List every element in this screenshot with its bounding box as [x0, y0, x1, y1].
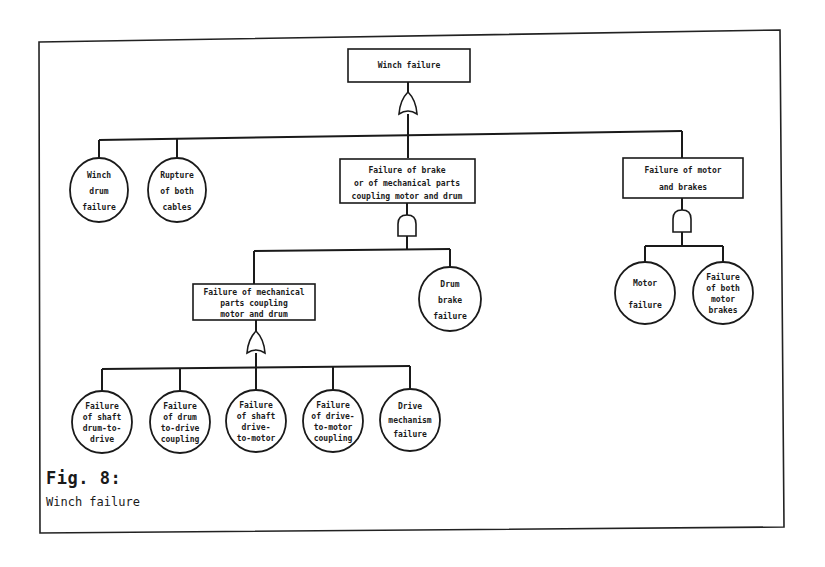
- svg-text:Failure of mechanical: Failure of mechanical: [203, 287, 304, 297]
- svg-text:or of mechanical parts: or of mechanical parts: [354, 178, 460, 188]
- figure-number: Fig. 8:: [46, 468, 121, 488]
- svg-text:Rupture: Rupture: [160, 171, 194, 180]
- svg-text:Failure of motor: Failure of motor: [644, 165, 721, 175]
- svg-text:and brakes: and brakes: [659, 183, 707, 192]
- svg-text:failure: failure: [82, 202, 116, 212]
- svg-text:Failure: Failure: [85, 401, 119, 411]
- svg-text:drum-to-: drum-to-: [83, 424, 122, 433]
- svg-text:Drive: Drive: [398, 401, 422, 411]
- basic-event-failure-both-motor-brakes[interactable]: Failure of both motor brakes: [693, 262, 753, 324]
- svg-text:of shaft: of shaft: [83, 413, 122, 422]
- svg-text:Drum: Drum: [440, 280, 459, 289]
- basic-event-rupture-of-both-cables[interactable]: Rupture of both cables: [148, 158, 206, 222]
- svg-text:of both: of both: [160, 187, 194, 196]
- svg-text:drive: drive: [90, 434, 114, 444]
- svg-text:to-drive: to-drive: [161, 423, 200, 433]
- svg-text:Winch: Winch: [87, 170, 111, 180]
- svg-text:brake: brake: [438, 296, 462, 305]
- svg-text:coupling motor and drum: coupling motor and drum: [352, 191, 463, 201]
- intermediate-event-failure-motor-and-brakes[interactable]: Failure of motor and brakes: [623, 158, 743, 198]
- basic-event-failure-drum-to-drive-coupling[interactable]: Failure of drum to-drive coupling: [150, 391, 210, 453]
- svg-text:motor and drum: motor and drum: [220, 310, 288, 319]
- svg-text:Failure of brake: Failure of brake: [368, 165, 445, 175]
- svg-text:Failure: Failure: [239, 400, 273, 410]
- basic-event-winch-drum-failure[interactable]: Winch drum failure: [70, 158, 128, 222]
- svg-text:motor: motor: [711, 295, 735, 304]
- or-gate-icon: [399, 92, 417, 114]
- svg-text:Motor: Motor: [633, 279, 657, 288]
- figure-caption: Winch failure: [46, 495, 140, 509]
- fault-tree-diagram: Winch failure Winch drum failure Rupture…: [0, 0, 825, 567]
- svg-text:parts coupling: parts coupling: [220, 298, 288, 308]
- svg-text:drum: drum: [89, 187, 108, 196]
- basic-event-failure-drive-to-motor-coupling[interactable]: Failure of drive- to-motor coupling: [303, 390, 363, 452]
- basic-event-failure-shaft-drive-to-motor[interactable]: Failure of shaft drive- to-motor: [226, 390, 286, 452]
- and-gate-icon: [673, 210, 691, 232]
- intermediate-event-failure-brake-or-mech-parts[interactable]: Failure of brake or of mechanical parts …: [340, 159, 475, 203]
- svg-text:cables: cables: [163, 203, 192, 212]
- top-event-winch-failure[interactable]: Winch failure: [348, 49, 470, 82]
- intermediate-event-failure-mech-parts-coupling[interactable]: Failure of mechanical parts coupling mot…: [193, 284, 315, 320]
- svg-text:of drive-: of drive-: [311, 411, 354, 421]
- and-gate-icon: [398, 215, 416, 236]
- svg-text:brakes: brakes: [709, 306, 738, 315]
- basic-event-drum-brake-failure[interactable]: Drum brake failure: [419, 267, 481, 331]
- svg-text:failure: failure: [628, 300, 662, 310]
- svg-text:drive-: drive-: [242, 422, 271, 432]
- svg-text:to-motor: to-motor: [237, 434, 276, 443]
- connector-lines: [99, 82, 723, 392]
- or-gate-icon: [247, 331, 265, 353]
- svg-text:failure: failure: [433, 311, 467, 321]
- svg-text:Failure: Failure: [316, 400, 350, 410]
- svg-text:Failure: Failure: [163, 401, 197, 411]
- basic-event-motor-failure[interactable]: Motor failure: [615, 262, 675, 324]
- svg-text:coupling: coupling: [314, 433, 353, 443]
- svg-text:Failure: Failure: [706, 272, 740, 282]
- basic-event-drive-mechanism-failure[interactable]: Drive mechanism failure: [380, 389, 440, 451]
- svg-text:to-motor: to-motor: [314, 423, 353, 432]
- basic-event-failure-shaft-drum-to-drive[interactable]: Failure of shaft drum-to- drive: [72, 391, 132, 453]
- svg-text:mechanism: mechanism: [388, 415, 432, 425]
- svg-text:of shaft: of shaft: [237, 412, 276, 421]
- svg-text:coupling: coupling: [161, 434, 200, 444]
- svg-text:failure: failure: [393, 429, 427, 439]
- svg-text:of drum: of drum: [163, 413, 197, 422]
- svg-text:of both: of both: [706, 284, 740, 293]
- svg-text:Winch failure: Winch failure: [378, 60, 441, 70]
